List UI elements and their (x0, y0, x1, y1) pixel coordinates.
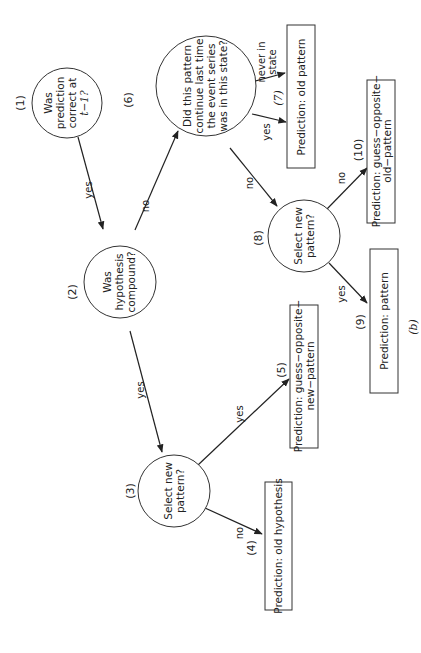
node-6-line-2: continue last time (193, 39, 205, 134)
edge-label-3-4: no (234, 527, 245, 539)
node-10: (10) Prediction: guess−opposite− old−pat… (352, 75, 395, 228)
node-4-text: Prediction: old hypothesis (272, 478, 284, 613)
edge-label-2-6: no (140, 200, 151, 212)
node-1-line-1: Was (42, 92, 54, 114)
node-2: (2) Was hypothesis compound? (66, 246, 156, 318)
node-5-number: (5) (275, 362, 288, 378)
node-7: (7) Prediction: old pattern (272, 25, 315, 168)
edge-label-6-8: no (244, 177, 255, 189)
node-8-number: (8) (252, 230, 265, 246)
node-3-line-2: pattern? (174, 469, 186, 513)
edge-label-8-10: no (336, 172, 347, 184)
edge-label-3-5: yes (234, 405, 245, 422)
node-5: (5) Prediction: guess−opposite− new−patt… (275, 300, 318, 453)
node-6-line-1: Did this pattern (181, 45, 193, 127)
node-2-line-3: compound? (125, 251, 137, 312)
node-1: (1) Was prediction correct at t−1? (14, 68, 102, 138)
edge-6-to-7-yes (252, 114, 286, 122)
node-7-text: Prediction: old pattern (295, 39, 307, 156)
edge-8-to-9 (329, 263, 367, 303)
node-4-number: (4) (245, 540, 258, 556)
node-1-line-4: t−1? (78, 90, 90, 116)
node-6-line-3: the event series (205, 44, 217, 129)
node-2-line-2: hypothesis (113, 253, 125, 310)
node-4: (4) Prediction: old hypothesis (245, 478, 292, 613)
node-10-line-2: old−pattern (381, 119, 393, 182)
edge-label-8-9: yes (336, 285, 347, 302)
edge-2-to-6 (135, 131, 178, 230)
node-1-line-3: correct at (66, 78, 78, 129)
edge-label-6-7-yes: yes (261, 123, 272, 140)
node-6: (6) Did this pattern continue last time … (122, 36, 256, 136)
node-2-number: (2) (66, 284, 79, 300)
node-1-line-2: prediction (54, 77, 66, 130)
node-5-line-2: new−pattern (304, 341, 316, 410)
node-1-number: (1) (14, 95, 27, 111)
node-9-number: (9) (354, 314, 367, 330)
node-6-line-4: was in this state? (217, 40, 229, 131)
decision-tree-diagram: (1) Was prediction correct at t−1? (2) W… (0, 0, 421, 653)
node-9-text: Prediction: pattern (378, 272, 390, 370)
node-5-line-1: Prediction: guess−opposite− (292, 300, 304, 453)
svg-text:state: state (267, 49, 278, 74)
edge-label-1-2: yes (83, 181, 94, 198)
node-3-number: (3) (124, 483, 137, 499)
node-10-number: (10) (352, 139, 365, 162)
node-8: (8) Select new pattern? (252, 200, 340, 272)
node-9: (9) Prediction: pattern (354, 249, 398, 393)
node-8-line-2: pattern? (304, 214, 316, 258)
node-6-number: (6) (122, 92, 135, 108)
node-3: (3) Select new pattern? (124, 455, 210, 527)
node-3-line-1: Select new (162, 462, 174, 520)
node-2-line-1: Was (101, 271, 113, 293)
svg-text:never in: never in (256, 42, 267, 83)
edge-8-to-10 (327, 168, 367, 209)
node-8-line-1: Select new (292, 207, 304, 265)
node-7-number: (7) (272, 90, 285, 106)
figure-caption: (b) (407, 319, 420, 335)
edge-label-2-3: yes (135, 381, 146, 398)
